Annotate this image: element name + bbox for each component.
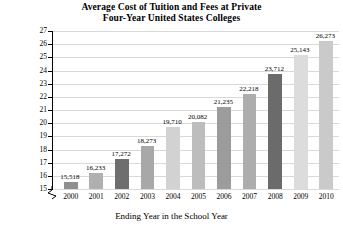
bar-column[interactable]: 16,2332001	[89, 173, 103, 189]
x-axis-tick-label: 2005	[191, 192, 206, 201]
y-axis-tick-label: 22	[40, 93, 48, 101]
bar[interactable]	[115, 159, 129, 189]
y-axis-tick	[48, 189, 53, 190]
y-axis-tick-label: 19	[40, 132, 48, 140]
x-axis-tick-label: 2007	[242, 192, 257, 201]
bar-value-label: 23,712	[265, 65, 284, 73]
y-axis-tick-label: 18	[40, 146, 48, 154]
bar-column[interactable]: 22,2182007	[243, 94, 257, 189]
x-axis-tick-label: 2004	[165, 192, 180, 201]
chart-title-line-1: Average Cost of Tuition and Fees at Priv…	[0, 2, 343, 13]
x-axis-tick-label: 2003	[140, 192, 155, 201]
y-axis-tick-label: 17	[40, 159, 48, 167]
bar-column[interactable]: 26,2732010	[319, 41, 333, 189]
bar[interactable]	[64, 182, 78, 189]
bar[interactable]	[217, 107, 231, 189]
y-axis-title: Tuition and Fees (in thousands of dollar…	[0, 0, 14, 16]
chart-title-line-2: Four-Year United States Colleges	[0, 13, 343, 24]
bar-value-label: 26,273	[316, 32, 335, 40]
x-axis-title: Ending Year in the School Year	[0, 211, 343, 222]
y-axis-tick-label: 26	[40, 40, 48, 48]
y-axis-tick-label: 25	[40, 53, 48, 61]
bar-value-label: 19,710	[163, 118, 182, 126]
bar-column[interactable]: 15,5182000	[64, 182, 78, 189]
x-axis-tick-label: 2008	[268, 192, 283, 201]
bar-value-label: 17,272	[111, 150, 130, 158]
bar-series: 15,518200016,233200117,272200218,2732003…	[53, 31, 339, 189]
bar-value-label: 22,218	[239, 85, 258, 93]
chart-container: Average Cost of Tuition and Fees at Priv…	[0, 0, 343, 234]
x-axis-tick-label: 2009	[293, 192, 308, 201]
bar-column[interactable]: 18,2732003	[141, 146, 155, 189]
x-axis-tick-label: 2002	[114, 192, 129, 201]
bar[interactable]	[319, 41, 333, 189]
y-axis-tick-label: 21	[40, 106, 48, 114]
bar[interactable]	[141, 146, 155, 189]
bar-column[interactable]: 19,7102004	[166, 127, 180, 189]
x-axis-tick-label: 2001	[89, 192, 104, 201]
bar-column[interactable]: 17,2722002	[115, 159, 129, 189]
bar[interactable]	[166, 127, 180, 189]
bar[interactable]	[268, 74, 282, 189]
gridline	[53, 189, 339, 190]
bar-value-label: 18,273	[137, 137, 156, 145]
x-axis-tick-label: 2000	[63, 192, 78, 201]
y-axis-tick-label: 15	[40, 185, 48, 193]
bar-value-label: 25,143	[290, 46, 309, 54]
plot-area: 15161718192021222324252627 15,518200016,…	[52, 31, 339, 190]
y-axis-title-line-2: (in thousands of dollars)	[4, 0, 14, 16]
bar[interactable]	[89, 173, 103, 189]
bar-value-label: 21,235	[214, 98, 233, 106]
bar-value-label: 15,518	[60, 173, 79, 181]
bar-column[interactable]: 25,1432009	[294, 55, 308, 189]
y-axis-tick-label: 20	[40, 119, 48, 127]
bar-column[interactable]: 23,7122008	[268, 74, 282, 189]
bar[interactable]	[294, 55, 308, 189]
y-axis-tick-label: 24	[40, 67, 48, 75]
bar[interactable]	[192, 122, 206, 189]
y-axis-tick-label: 16	[40, 172, 48, 180]
y-axis-tick-label: 23	[40, 80, 48, 88]
bar[interactable]	[243, 94, 257, 189]
x-axis-tick-label: 2010	[319, 192, 334, 201]
bar-value-label: 16,233	[86, 164, 105, 172]
y-axis-tick-label: 27	[40, 27, 48, 35]
x-axis-tick-label: 2006	[217, 192, 232, 201]
bar-column[interactable]: 21,2352006	[217, 107, 231, 189]
chart-title: Average Cost of Tuition and Fees at Priv…	[0, 2, 343, 24]
bar-column[interactable]: 20,0822005	[192, 122, 206, 189]
bar-value-label: 20,082	[188, 113, 207, 121]
